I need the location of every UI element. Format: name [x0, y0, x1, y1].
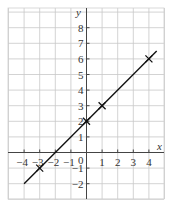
x-tick-label: 1 — [99, 156, 105, 168]
y-tick-label: 3 — [78, 100, 84, 112]
coordinate-graph: −4−3−2−1123487654321−1−20xy — [0, 0, 173, 209]
y-tick-label: 5 — [78, 69, 84, 81]
x-tick-label: 3 — [131, 156, 137, 168]
origin-label: 0 — [78, 154, 84, 166]
y-tick-label: 1 — [78, 131, 84, 143]
y-tick-label: 6 — [78, 53, 84, 65]
y-tick-label: −2 — [72, 178, 84, 190]
x-tick-label: −2 — [47, 156, 59, 168]
y-tick-label: 8 — [78, 22, 84, 34]
x-tick-label: 2 — [115, 156, 121, 168]
y-tick-label: 4 — [78, 84, 84, 96]
x-tick-label: −4 — [16, 156, 28, 168]
x-axis-label: x — [156, 140, 162, 152]
plotted-line — [24, 51, 157, 184]
y-axis-label: y — [75, 6, 81, 18]
y-tick-label: 7 — [78, 37, 84, 49]
x-tick-label: 4 — [146, 156, 152, 168]
